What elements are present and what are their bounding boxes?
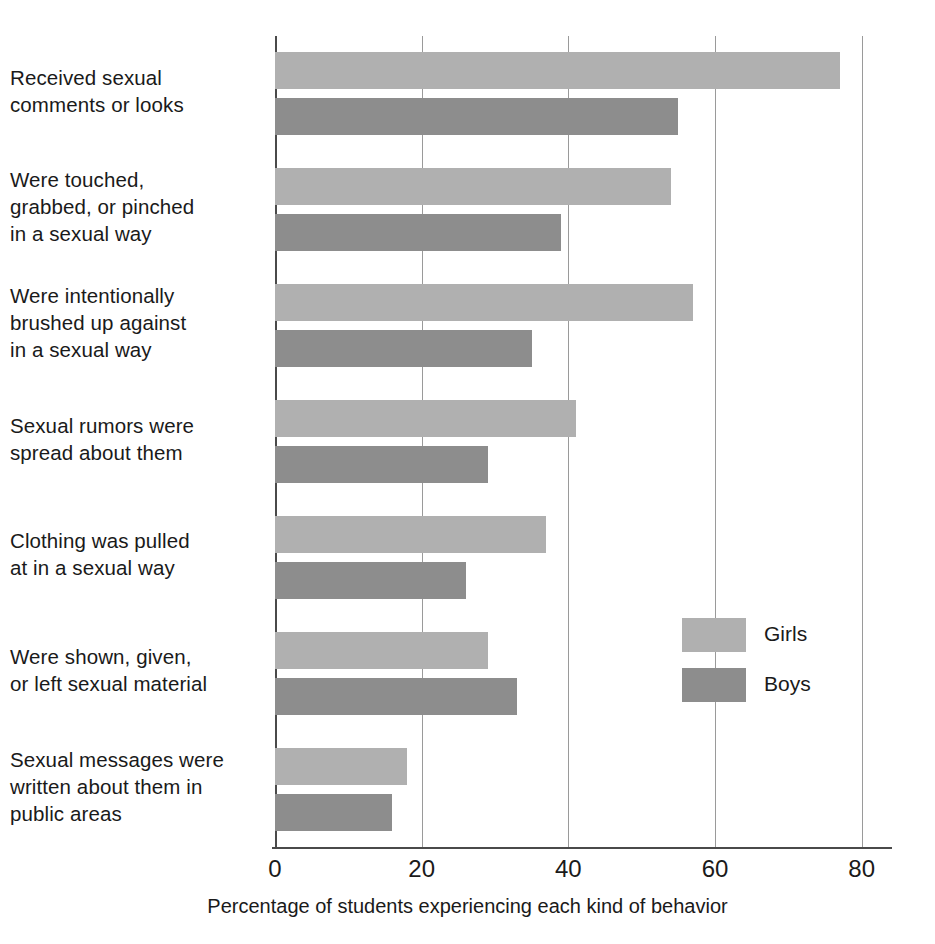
category-label-line: written about them in <box>10 773 260 800</box>
bar-boys-1 <box>275 214 561 251</box>
x-tick-20: 20 <box>408 855 435 883</box>
x-axis-line <box>272 847 892 849</box>
bar-girls-4 <box>275 516 546 553</box>
bar-girls-3 <box>275 400 576 437</box>
bar-girls-1 <box>275 168 671 205</box>
category-label-line: at in a sexual way <box>10 554 260 581</box>
category-label-line: Received sexual <box>10 64 260 91</box>
bar-boys-2 <box>275 330 532 367</box>
category-label-line: comments or looks <box>10 91 260 118</box>
legend-label-boys: Boys <box>764 669 811 699</box>
category-label-0: Received sexualcomments or looks <box>10 64 260 118</box>
legend-swatch-girls <box>682 618 746 652</box>
gridline-80 <box>862 36 863 847</box>
category-label-line: brushed up against <box>10 309 260 336</box>
x-tick-80: 80 <box>848 855 875 883</box>
category-label-4: Clothing was pulledat in a sexual way <box>10 527 260 581</box>
category-label-2: Were intentionallybrushed up againstin a… <box>10 282 260 363</box>
bar-girls-0 <box>275 52 840 89</box>
bar-boys-4 <box>275 562 466 599</box>
category-label-3: Sexual rumors werespread about them <box>10 412 260 466</box>
category-label-line: or left sexual material <box>10 670 260 697</box>
bar-boys-0 <box>275 98 678 135</box>
category-label-line: spread about them <box>10 439 260 466</box>
category-label-line: in a sexual way <box>10 336 260 363</box>
category-label-line: Were touched, <box>10 166 260 193</box>
category-label-line: Sexual messages were <box>10 746 260 773</box>
gridline-20 <box>422 36 423 847</box>
category-label-line: Were intentionally <box>10 282 260 309</box>
bar-boys-6 <box>275 794 392 831</box>
category-label-line: Were shown, given, <box>10 643 260 670</box>
category-label-line: Clothing was pulled <box>10 527 260 554</box>
category-label-5: Were shown, given,or left sexual materia… <box>10 643 260 697</box>
x-tick-0: 0 <box>268 855 281 883</box>
bar-boys-3 <box>275 446 488 483</box>
gridline-40 <box>568 36 569 847</box>
x-tick-40: 40 <box>555 855 582 883</box>
category-label-line: Sexual rumors were <box>10 412 260 439</box>
bar-girls-2 <box>275 284 693 321</box>
category-label-line: public areas <box>10 800 260 827</box>
category-label-column: Received sexualcomments or looksWere tou… <box>28 0 260 847</box>
legend-swatch-boys <box>682 668 746 702</box>
gridline-60 <box>715 36 716 847</box>
x-tick-60: 60 <box>702 855 729 883</box>
category-label-line: grabbed, or pinched <box>10 193 260 220</box>
bar-girls-6 <box>275 748 407 785</box>
plot-area <box>275 36 863 847</box>
bar-boys-5 <box>275 678 517 715</box>
legend-label-girls: Girls <box>764 619 807 649</box>
x-axis-title: Percentage of students experiencing each… <box>0 895 935 918</box>
bar-girls-5 <box>275 632 488 669</box>
category-label-1: Were touched,grabbed, or pinchedin a sex… <box>10 166 260 247</box>
y-axis-line <box>275 36 277 847</box>
category-label-6: Sexual messages werewritten about them i… <box>10 746 260 827</box>
bar-chart: Received sexualcomments or looksWere tou… <box>0 0 935 944</box>
category-label-line: in a sexual way <box>10 220 260 247</box>
